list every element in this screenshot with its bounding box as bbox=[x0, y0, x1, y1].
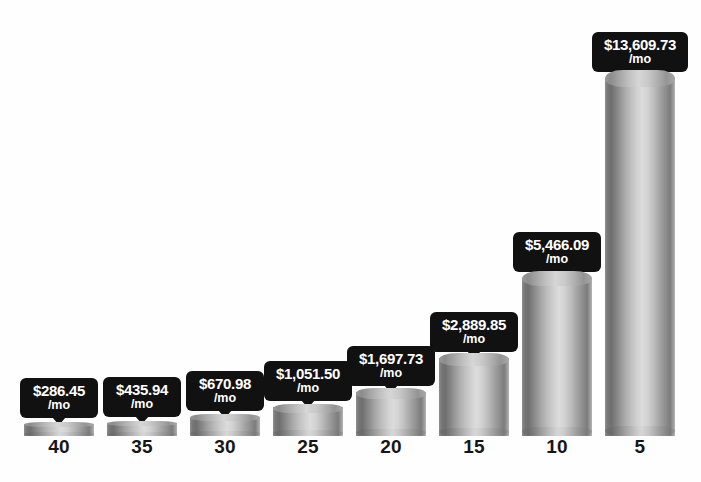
bar-top-cap bbox=[439, 353, 509, 366]
bar-group[interactable]: $5,466.09 /mo bbox=[522, 278, 592, 436]
value-callout: $1,051.50 /mo bbox=[264, 361, 352, 401]
bar-group[interactable]: $435.94 /mo bbox=[107, 423, 177, 436]
value-period: /mo bbox=[437, 333, 511, 346]
chart-root: $286.45 /mo $435.94 /mo $670.98 /mo bbox=[0, 0, 701, 482]
value-amount: $435.94 bbox=[110, 382, 174, 397]
bar-body bbox=[522, 278, 592, 436]
bar-top-cap bbox=[356, 388, 426, 399]
bar-top-cap bbox=[107, 421, 177, 426]
bar-top-cap bbox=[522, 271, 592, 286]
value-amount: $286.45 bbox=[27, 383, 91, 398]
axis-tick-label-35: 35 bbox=[107, 436, 177, 458]
value-period: /mo bbox=[354, 367, 428, 380]
axis-tick-label-10: 10 bbox=[522, 436, 592, 458]
axis-tick-label-25: 25 bbox=[273, 436, 343, 458]
value-period: /mo bbox=[271, 382, 345, 395]
value-callout: $435.94 /mo bbox=[103, 377, 181, 417]
value-callout: $13,609.73 /mo bbox=[592, 32, 688, 72]
axis-tick-label-30: 30 bbox=[190, 436, 260, 458]
value-amount: $670.98 bbox=[193, 376, 257, 391]
axis-tick-label-40: 40 bbox=[24, 436, 94, 458]
value-amount: $1,051.50 bbox=[271, 366, 345, 381]
x-axis: 40 35 30 25 20 15 10 5 bbox=[0, 436, 701, 462]
value-period: /mo bbox=[193, 392, 257, 405]
value-amount: $5,466.09 bbox=[520, 237, 594, 252]
bar-body bbox=[605, 78, 675, 436]
axis-tick-label-20: 20 bbox=[356, 436, 426, 458]
value-amount: $1,697.73 bbox=[354, 351, 428, 366]
value-period: /mo bbox=[599, 53, 681, 66]
value-callout: $1,697.73 /mo bbox=[347, 346, 435, 386]
bar-group[interactable]: $2,889.85 /mo bbox=[439, 358, 509, 436]
axis-tick-label-15: 15 bbox=[439, 436, 509, 458]
value-amount: $13,609.73 bbox=[599, 37, 681, 52]
value-period: /mo bbox=[520, 253, 594, 266]
bar-body bbox=[439, 358, 509, 436]
value-callout: $5,466.09 /mo bbox=[513, 232, 601, 272]
bar-group[interactable]: $13,609.73 /mo bbox=[605, 78, 675, 436]
bar-top-cap bbox=[273, 404, 343, 413]
footer-caption bbox=[0, 470, 701, 482]
bar-group[interactable]: $670.98 /mo bbox=[190, 417, 260, 436]
value-period: /mo bbox=[110, 398, 174, 411]
bar-top-cap bbox=[190, 414, 260, 421]
value-period: /mo bbox=[27, 399, 91, 412]
value-amount: $2,889.85 bbox=[437, 317, 511, 332]
bar-top-cap bbox=[24, 422, 94, 427]
bar-top-cap bbox=[605, 70, 675, 87]
plot-area: $286.45 /mo $435.94 /mo $670.98 /mo bbox=[0, 0, 701, 436]
value-callout: $2,889.85 /mo bbox=[430, 312, 518, 352]
axis-tick-label-5: 5 bbox=[605, 436, 675, 458]
bar-group[interactable]: $1,051.50 /mo bbox=[273, 407, 343, 436]
value-callout: $286.45 /mo bbox=[20, 378, 98, 418]
value-callout: $670.98 /mo bbox=[186, 371, 264, 411]
bar-group[interactable]: $1,697.73 /mo bbox=[356, 392, 426, 436]
bar-group[interactable]: $286.45 /mo bbox=[24, 424, 94, 436]
